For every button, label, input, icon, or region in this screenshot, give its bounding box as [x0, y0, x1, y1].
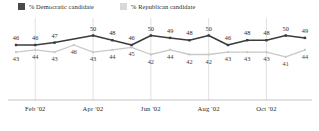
legend-item-democratic: % Democratic candidate: [18, 3, 94, 10]
x-axis-labels: Feb '02Apr '02Jun '02Aug '02Oct '02: [0, 105, 319, 119]
data-point-rep: [188, 54, 190, 56]
value-label-rep: 43: [263, 56, 269, 62]
x-axis-tick-label: Aug '02: [198, 105, 220, 112]
value-label-rep: 46: [71, 49, 77, 55]
data-point-dem: [92, 34, 94, 36]
legend-item-republican: % Republican candidate: [120, 3, 195, 10]
data-point-dem: [150, 34, 152, 36]
value-label-dem: 49: [167, 28, 173, 34]
value-label-rep: 44: [302, 54, 308, 60]
value-label-rep: 42: [148, 59, 154, 65]
value-label-dem: 48: [244, 30, 250, 36]
value-label-rep: 43: [225, 56, 231, 62]
data-point-rep: [54, 51, 56, 53]
value-label-dem: 46: [225, 35, 231, 41]
data-point-rep: [73, 44, 75, 46]
value-label-dem: 48: [186, 30, 192, 36]
data-point-dem: [207, 34, 209, 36]
data-point-rep: [111, 49, 113, 51]
data-point-dem: [169, 37, 171, 39]
series-line-dem: [16, 36, 305, 46]
value-label-rep: 43: [90, 56, 96, 62]
value-label-dem: 46: [32, 35, 38, 41]
legend-label-republican: % Republican candidate: [131, 3, 195, 10]
value-label-dem: 47: [51, 33, 57, 39]
data-point-rep: [131, 46, 133, 48]
data-point-rep: [34, 49, 36, 51]
value-label-dem: 50: [90, 26, 96, 32]
data-point-rep: [246, 51, 248, 53]
data-point-dem: [34, 44, 36, 46]
value-label-dem: 48: [263, 30, 269, 36]
data-point-rep: [15, 51, 17, 53]
value-label-rep: 44: [32, 54, 38, 60]
data-point-rep: [150, 54, 152, 56]
data-point-dem: [188, 39, 190, 41]
data-point-dem: [265, 39, 267, 41]
chart-legend: % Democratic candidate % Republican cand…: [18, 3, 195, 10]
data-point-dem: [53, 41, 55, 43]
data-point-rep: [227, 51, 229, 53]
value-label-rep: 43: [51, 56, 57, 62]
data-point-rep: [285, 56, 287, 58]
value-label-dem: 46: [13, 35, 19, 41]
value-label-dem: 50: [206, 26, 212, 32]
x-axis-tick-label: Oct '02: [256, 105, 276, 112]
value-label-rep: 44: [167, 54, 173, 60]
value-label-rep: 42: [206, 59, 212, 65]
data-point-dem: [246, 39, 248, 41]
legend-swatch-republican-icon: [120, 3, 127, 10]
value-label-rep: 43: [244, 56, 250, 62]
data-point-rep: [304, 49, 306, 51]
poll-trend-chart: % Democratic candidate % Republican cand…: [0, 0, 319, 131]
plot-area: 4646475048465049485046484850494344434643…: [0, 18, 319, 102]
value-label-dem: 50: [148, 26, 154, 32]
value-label-dem: 50: [283, 26, 289, 32]
value-label-rep: 42: [186, 59, 192, 65]
data-point-rep: [92, 51, 94, 53]
data-point-dem: [285, 34, 287, 36]
legend-swatch-democratic-icon: [18, 3, 25, 10]
series-line-rep: [16, 45, 305, 57]
value-label-dem: 46: [128, 35, 134, 41]
data-point-dem: [15, 44, 17, 46]
data-point-rep: [169, 49, 171, 51]
value-label-rep: 41: [283, 61, 289, 67]
x-axis-tick-label: Apr '02: [83, 105, 104, 112]
plot-svg: [0, 18, 319, 102]
data-point-dem: [111, 39, 113, 41]
data-point-dem: [130, 44, 132, 46]
x-axis-tick-label: Jun '02: [141, 105, 161, 112]
data-point-rep: [265, 51, 267, 53]
x-axis-tick-label: Feb '02: [25, 105, 46, 112]
data-point-dem: [227, 44, 229, 46]
value-label-dem: 49: [302, 28, 308, 34]
legend-label-democratic: % Democratic candidate: [29, 3, 94, 10]
data-point-rep: [208, 54, 210, 56]
data-point-dem: [304, 37, 306, 39]
value-label-rep: 44: [109, 54, 115, 60]
value-label-dem: 48: [109, 30, 115, 36]
value-label-rep: 43: [13, 56, 19, 62]
value-label-rep: 45: [128, 51, 134, 57]
